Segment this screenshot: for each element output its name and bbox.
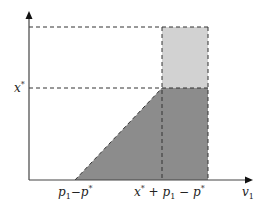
x-axis-label-v1: v1 — [242, 185, 254, 201]
y-tick-xstar: x* — [14, 80, 25, 95]
dark-region — [75, 88, 208, 180]
diagram: x* p1−p* x* + p1 − p* v1 — [0, 0, 268, 204]
y-axis-arrow-icon — [26, 11, 33, 19]
x-tick-p1-minus-pstar: p1−p* — [58, 184, 93, 201]
x-tick-xstar-plus-p1-minus-pstar: x* + p1 − p* — [134, 184, 205, 201]
light-region — [162, 27, 208, 88]
x-axis-arrow-icon — [245, 177, 253, 184]
